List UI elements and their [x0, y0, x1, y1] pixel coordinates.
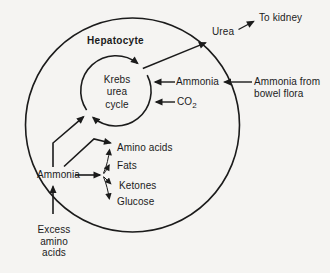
- ammonia-lower-label: Ammonia: [37, 169, 80, 181]
- arrow-ammonia-to-amino-acids: [64, 139, 111, 167]
- ammonia-right-label: Ammonia: [176, 76, 219, 88]
- co2-base-text: CO: [177, 96, 192, 107]
- to-kidney-label: To kidney: [259, 12, 302, 24]
- urea-label: Urea: [212, 26, 234, 38]
- excess-line2: amino: [38, 236, 71, 248]
- krebs-cycle-line2: urea: [104, 86, 131, 99]
- hepatocyte-label: Hepatocyte: [87, 35, 144, 47]
- krebs-cycle-line1: Krebs: [104, 74, 131, 87]
- co2-subscript: 2: [192, 101, 197, 110]
- ketones-label: Ketones: [119, 180, 156, 192]
- fats-label: Fats: [117, 160, 137, 172]
- co2-label: CO2: [177, 96, 197, 109]
- krebs-cycle-line3: cycle: [104, 99, 131, 112]
- arrow-cycle-to-urea: [143, 43, 206, 69]
- arrow-ammonia-to-cycle: [53, 117, 84, 167]
- amino-acids-label: Amino acids: [117, 142, 173, 154]
- krebs-urea-cycle-label: Krebs urea cycle: [104, 74, 131, 112]
- hepatocyte-urea-cycle-diagram: Hepatocyte Krebs urea cycle Urea To kidn…: [0, 0, 330, 273]
- ammonia-source-line2: bowel flora: [254, 88, 320, 100]
- ammonia-source-line1: Ammonia from: [254, 76, 320, 88]
- excess-line1: Excess: [38, 224, 71, 236]
- ammonia-from-bowel-flora-label: Ammonia from bowel flora: [254, 76, 320, 100]
- excess-line3: acids: [38, 247, 71, 259]
- branch-curve-to-glucose: [104, 177, 110, 199]
- excess-amino-acids-label: Excess amino acids: [38, 224, 71, 259]
- arrow-urea-to-kidney: [239, 22, 254, 30]
- glucose-label: Glucose: [117, 196, 154, 208]
